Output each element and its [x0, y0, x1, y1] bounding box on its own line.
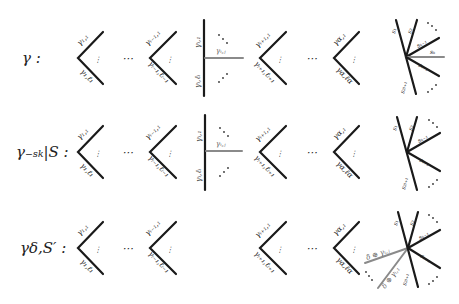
row-gamma-delta-s-prime: γδ,S′ : γ₁,₁ γ₁,ℓ₁ ⋮ ⋯ γᵢ₋₁,₁ γᵢ₋₁,ℓᵢ₋₁ … [20, 212, 440, 290]
wedge-top-label: γᵢ₊₁,₁ [253, 30, 272, 49]
ray-label-s2l-plus-1: s₂ₗ₊₁ [398, 80, 408, 94]
vdots: ⋮ [94, 149, 102, 158]
vdots: ⋮ [350, 149, 358, 158]
ray-label-delta-gamma-i1: δ ⊕ γᵢ,₁ [380, 265, 402, 290]
wedge-1: γ₁,₁ γ₁,ℓ₁ ⋮ [75, 222, 103, 275]
ray-label-s2l-plus-1: s₂ₗ₊₁ [399, 176, 409, 190]
ray-label-s1: s₁ [390, 124, 398, 131]
wedge-2: γᵢ₋₁,₁ γᵢ₋₁,ℓᵢ₋₁ ⋮ [143, 122, 176, 179]
wedge-bottom-label: γ₁,ℓ₁ [79, 161, 97, 179]
ray-label-sk-minus-1: sₖ₋₁ [415, 37, 428, 48]
vertical-bottom-label: γᵢ,ℓᵢ [193, 75, 202, 88]
ray-label-s1: s₁ [391, 219, 399, 226]
ellipsis: ⋯ [306, 52, 317, 65]
vdots: ⋮ [350, 245, 358, 254]
vdots: ⋮ [94, 55, 102, 64]
wedge-bottom-label: γα,ℓα [335, 255, 355, 276]
row-label: γδ,S′ : [20, 239, 66, 257]
vdots: ⋮ [276, 149, 284, 158]
wedge-top-label: γ₁,₁ [75, 222, 90, 238]
vertical-top-label: γᵢ,₁ [194, 131, 203, 142]
wedge-4: γα,₁ γα,ℓα ⋮ [331, 30, 359, 85]
vertical-bottom-label: γᵢ,ℓᵢ [194, 169, 203, 182]
diagram-canvas: γ : γ₁,₁ γ₁,ℓ₁ ⋮ ⋯ γᵢ₋₁,₁ γᵢ₋₁,ℓᵢ₋₁ ⋮ γᵢ… [0, 0, 459, 304]
ellipsis: ⋯ [306, 146, 317, 159]
wedge-top-label: γᵢ₊₁,₁ [253, 124, 272, 143]
ray-label-s2l-plus-1: s₂ₗ₊₁ [400, 272, 410, 286]
vdots: ⋮ [166, 149, 174, 158]
vertical-element: γᵢ,₁ γᵢ,ℓᵢ γᵢ,ⱼ [194, 115, 242, 190]
star-fan: s₁ s₂ sₖ₋₁ sₖ sₖ₊₁ s₂ₗ₊₁ [389, 20, 444, 94]
vdots: ⋮ [166, 245, 174, 254]
wedge-3: γᵢ₊₁,₁ γᵢ₊₁,ℓᵢ₊₁ ⋮ [253, 220, 286, 275]
wedge-2: γᵢ₋₁,₁ γᵢ₋₁,ℓᵢ₋₁ ⋮ [143, 218, 176, 275]
wedge-1: γ₁,₁ γ₁,ℓ₁ ⋮ [75, 32, 103, 85]
star-fan: s₁ s₂ sₖ₋₁ sₖ₊₁ s₂ₗ₊₁ [390, 117, 440, 190]
ray-label: γᵢ,ⱼ [216, 140, 226, 148]
vdots: ⋮ [166, 55, 174, 64]
wedge-top-label: γ₁,₁ [75, 32, 90, 48]
wedge-bottom-label: γ₁,ℓ₁ [79, 257, 97, 275]
vdots: ⋮ [350, 55, 358, 64]
ellipsis: ⋯ [306, 242, 317, 255]
wedge-4: γα,₁ γα,ℓα ⋮ [331, 124, 359, 179]
wedge-top-label: γᵢ₊₁,₁ [253, 220, 272, 239]
row-label: γ₋ₛₖ|S : [16, 143, 69, 161]
star-fan: s₁ s₂ sₖ₋₁ sₖ₊₁ s₂ₗ₊₁ δ ⊕ γᵢ,ⱼ δ ⊕ γᵢ,₁ [365, 212, 440, 290]
ellipsis: ⋯ [122, 52, 133, 65]
ray-label-sk-minus-1: sₖ₋₁ [416, 132, 429, 143]
vdots: ⋮ [276, 245, 284, 254]
wedge-top-label: γᵢ₋₁,₁ [143, 28, 162, 47]
wedge-top-label: γᵢ₋₁,₁ [143, 122, 162, 141]
ellipsis: ⋯ [122, 146, 133, 159]
row-gamma: γ : γ₁,₁ γ₁,ℓ₁ ⋮ ⋯ γᵢ₋₁,₁ γᵢ₋₁,ℓᵢ₋₁ ⋮ γᵢ… [22, 20, 444, 96]
vdots: ⋮ [94, 245, 102, 254]
wedge-4: γα,₁ γα,ℓα ⋮ [331, 220, 359, 275]
vdots: ⋮ [276, 55, 284, 64]
ray-label-sk-minus-1: sₖ₋₁ [417, 229, 430, 240]
vertical-top-label: γᵢ,₁ [193, 37, 202, 48]
ellipsis: ⋯ [122, 242, 133, 255]
wedge-2: γᵢ₋₁,₁ γᵢ₋₁,ℓᵢ₋₁ ⋮ [143, 28, 176, 85]
row-gamma-minus-sk: γ₋ₛₖ|S : γ₁,₁ γ₁,ℓ₁ ⋮ ⋯ γᵢ₋₁,₁ γᵢ₋₁,ℓᵢ₋₁… [16, 115, 440, 190]
ray-label-sk: sₖ [430, 48, 436, 55]
vertical-element: γᵢ,₁ γᵢ,ℓᵢ γᵢ,ⱼ [193, 20, 243, 96]
row-label: γ : [22, 49, 41, 67]
ray-label-s1: s₁ [389, 27, 397, 34]
wedge-3: γᵢ₊₁,₁ γᵢ₊₁,ℓᵢ₊₁ ⋮ [253, 124, 286, 179]
wedge-top-label: γ₁,₁ [75, 126, 90, 142]
wedge-top-label: γᵢ₋₁,₁ [143, 218, 162, 237]
wedge-1: γ₁,₁ γ₁,ℓ₁ ⋮ [75, 126, 103, 179]
wedge-bottom-label: γ₁,ℓ₁ [79, 67, 97, 85]
wedge-bottom-label: γα,ℓα [335, 159, 355, 180]
ray-label: γᵢ,ⱼ [216, 47, 226, 55]
wedge-3: γᵢ₊₁,₁ γᵢ₊₁,ℓᵢ₊₁ ⋮ [253, 30, 286, 85]
wedge-bottom-label: γα,ℓα [335, 65, 355, 86]
